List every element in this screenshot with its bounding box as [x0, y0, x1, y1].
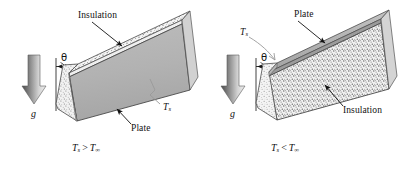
plate-leader-left	[117, 109, 131, 124]
insulation-leader-left	[92, 22, 122, 46]
temp-subscript: s	[168, 105, 171, 112]
caption-sub2: ∞	[294, 146, 299, 153]
caption-relation: <	[279, 142, 289, 153]
plate-leader-right	[298, 21, 325, 43]
gravity-arrow-left	[22, 55, 46, 104]
panel-right-drawing	[203, 0, 405, 170]
caption-cooled: Ts<T∞	[271, 142, 299, 153]
panel-left-drawing	[0, 0, 202, 170]
insulation-label: Insulation	[78, 11, 117, 21]
gravity-label: g	[230, 108, 235, 119]
angle-theta-label: θ	[261, 52, 267, 63]
insulation-label: Insulation	[343, 106, 382, 116]
temp-subscript: s	[245, 30, 248, 37]
plate-label: Plate	[131, 124, 151, 134]
surface-temperature-label: Ts	[163, 103, 171, 113]
angle-theta-label: θ	[61, 52, 67, 63]
gravity-label: g	[31, 108, 36, 119]
caption-sub2: ∞	[95, 146, 100, 153]
caption-heated: Ts>T∞	[72, 142, 100, 153]
plate-label: Plate	[294, 10, 314, 20]
panel-heated-plate: Insulation Plate Ts θ g Ts>T∞	[0, 0, 202, 170]
caption-relation: >	[80, 142, 90, 153]
surface-temperature-label: Ts	[240, 28, 248, 38]
panel-cooled-plate: Plate Insulation Ts θ g Ts<T∞	[203, 0, 405, 170]
gravity-arrow-right	[221, 55, 245, 104]
plate-front-face-left	[69, 24, 190, 121]
inclined-plate-convection-figure: Insulation Plate Ts θ g Ts>T∞	[0, 0, 405, 170]
